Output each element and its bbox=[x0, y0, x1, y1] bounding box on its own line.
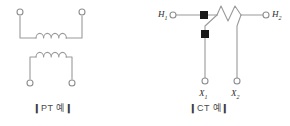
ct-caption-text: CT 예 bbox=[197, 103, 221, 113]
pt-primary-left-lead bbox=[20, 16, 36, 38]
pt-primary-right-lead bbox=[66, 16, 82, 38]
pt-caption-bar-right: ❙ bbox=[65, 103, 73, 113]
ct-label-h1-sub: 1 bbox=[165, 15, 168, 21]
pt-primary-terminal-right[interactable] bbox=[79, 9, 85, 15]
pt-secondary-terminal-right[interactable] bbox=[69, 80, 75, 86]
ct-terminal-x1[interactable] bbox=[202, 78, 208, 84]
pt-primary-coil bbox=[36, 33, 66, 38]
ct-label-x2: X2 bbox=[231, 88, 240, 100]
pt-caption-bar-left: ❙ bbox=[33, 103, 41, 113]
ct-label-x2-sub: 2 bbox=[237, 94, 240, 100]
ct-label-h2: H2 bbox=[272, 9, 282, 21]
ct-caption-bar-right: ❙ bbox=[221, 103, 229, 113]
pt-secondary-terminal-left[interactable] bbox=[27, 80, 33, 86]
figure-canvas: H1 H2 X1 X2 ❙PT 예❙ ❙CT 예❙ bbox=[0, 0, 290, 126]
ct-caption: ❙CT 예❙ bbox=[189, 101, 229, 114]
pt-secondary-left-lead bbox=[30, 57, 36, 79]
ct-terminal-h2[interactable] bbox=[263, 12, 269, 18]
ct-secondary-right-tap bbox=[237, 15, 241, 78]
ct-terminal-x2[interactable] bbox=[234, 78, 240, 84]
ct-zigzag-winding bbox=[217, 6, 241, 21]
ct-label-x1-sub: 1 bbox=[205, 94, 208, 100]
ct-caption-bar-left: ❙ bbox=[189, 103, 197, 113]
pt-primary-terminal-left[interactable] bbox=[17, 9, 23, 15]
ct-label-h2-sub: 2 bbox=[279, 15, 282, 21]
ct-terminal-h1[interactable] bbox=[170, 12, 176, 18]
ct-polarity-mark-primary bbox=[200, 11, 208, 19]
pt-caption-text: PT 예 bbox=[41, 103, 65, 113]
pt-secondary-coil bbox=[36, 52, 66, 57]
pt-secondary-right-lead bbox=[66, 57, 72, 79]
ct-secondary-left-tap bbox=[205, 15, 217, 78]
ct-polarity-mark-secondary bbox=[201, 30, 209, 38]
pt-caption: ❙PT 예❙ bbox=[33, 101, 73, 114]
ct-label-x1: X1 bbox=[199, 88, 208, 100]
ct-label-h1: H1 bbox=[158, 9, 168, 21]
